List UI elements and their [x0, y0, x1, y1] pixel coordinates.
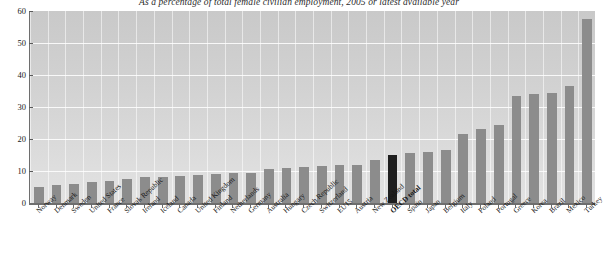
y-axis-tick-label: 50	[2, 39, 26, 48]
x-axis-tick	[215, 204, 216, 208]
bar-poland	[476, 129, 486, 203]
x-axis-tick	[250, 204, 251, 208]
bar-austria	[352, 165, 362, 203]
y-axis-tick	[29, 75, 33, 76]
y-axis-tick-label: 0	[2, 199, 26, 208]
bar-slovak-republic	[122, 179, 132, 203]
x-axis-tick	[498, 204, 499, 208]
x-axis-tick	[268, 204, 269, 208]
x-axis-tick	[409, 204, 410, 208]
bar-sweden	[69, 184, 79, 203]
x-axis-tick	[339, 204, 340, 208]
x-axis-tick	[586, 204, 587, 208]
x-axis-tick	[392, 204, 393, 208]
bar-turkey	[582, 19, 592, 203]
x-axis-tick	[356, 204, 357, 208]
bar-oecd-total	[388, 155, 398, 203]
x-axis-tick	[179, 204, 180, 208]
y-axis-tick-label: 20	[2, 135, 26, 144]
y-axis-tick	[29, 43, 33, 44]
x-axis-tick	[374, 204, 375, 208]
x-axis-tick	[109, 204, 110, 208]
bar-australia	[264, 169, 274, 203]
x-axis-tick	[303, 204, 304, 208]
bar-new-zealand	[370, 160, 380, 203]
x-axis-tick	[515, 204, 516, 208]
bar-czech-republic	[299, 167, 309, 203]
bar-italy	[458, 134, 468, 203]
y-axis-tick-label: 10	[2, 167, 26, 176]
bar-denmark	[52, 185, 62, 203]
bars-layer	[30, 11, 595, 203]
x-axis-tick	[73, 204, 74, 208]
x-axis-tick	[427, 204, 428, 208]
bar-japan	[423, 152, 433, 203]
y-axis-labels: 0102030405060	[0, 0, 26, 264]
x-axis-line	[29, 203, 595, 205]
x-axis-tick	[126, 204, 127, 208]
bar-united-states	[87, 182, 97, 203]
x-axis-tick	[480, 204, 481, 208]
x-axis-tick	[91, 204, 92, 208]
x-axis-tick	[56, 204, 57, 208]
x-axis-tick	[568, 204, 569, 208]
bar-netherlands	[229, 173, 239, 203]
x-axis-tick	[321, 204, 322, 208]
bar-united-kingdom	[193, 175, 203, 203]
x-axis-tick	[462, 204, 463, 208]
y-axis-tick	[29, 107, 33, 108]
bar-portugal	[494, 125, 504, 203]
bar-iceland	[158, 177, 168, 203]
plot-area	[29, 11, 595, 203]
bar-korea	[529, 94, 539, 203]
y-axis-tick	[29, 11, 33, 12]
chart-title: As a percentage of total female civilian…	[0, 0, 598, 8]
x-axis-tick	[285, 204, 286, 208]
x-axis-tick	[162, 204, 163, 208]
bar-greece	[512, 96, 522, 203]
y-axis-tick-label: 40	[2, 71, 26, 80]
x-axis-tick	[144, 204, 145, 208]
x-axis-tick	[445, 204, 446, 208]
y-axis-tick	[29, 171, 33, 172]
bar-france	[105, 181, 115, 203]
bar-canada	[175, 176, 185, 203]
bar-germany	[246, 173, 256, 203]
bar-finland	[211, 174, 221, 203]
bar-spain	[405, 153, 415, 203]
x-axis-tick	[232, 204, 233, 208]
bar-brazil	[547, 93, 557, 203]
bar-mexico	[565, 86, 575, 203]
y-axis-tick-label: 60	[2, 7, 26, 16]
bar-ireland	[140, 177, 150, 203]
x-axis-tick	[551, 204, 552, 208]
x-axis-tick	[38, 204, 39, 208]
bar-eu15	[335, 165, 345, 203]
bar-hungary	[282, 168, 292, 203]
x-axis-tick	[533, 204, 534, 208]
y-axis-tick	[29, 139, 33, 140]
x-axis-tick	[197, 204, 198, 208]
y-axis-tick-label: 30	[2, 103, 26, 112]
bar-norway	[34, 187, 44, 203]
bar-switzerland	[317, 166, 327, 203]
bar-belgium	[441, 150, 451, 203]
